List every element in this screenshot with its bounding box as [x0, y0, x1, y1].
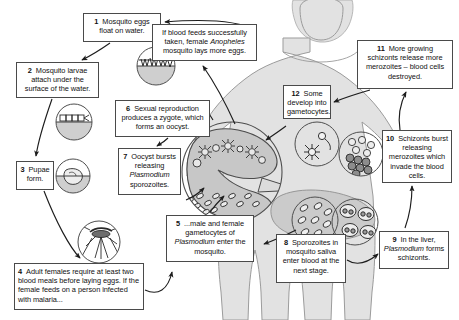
- step-10-text: Schizonts burst releasing merozoites whi…: [389, 134, 448, 181]
- arrow-4-to-5: [145, 272, 172, 292]
- step-4-number: 4: [18, 267, 26, 276]
- step-5-box: 5 ...male and female gametocytes of Plas…: [166, 215, 254, 262]
- step-4-text: Adult females require at least two blood…: [18, 267, 139, 304]
- step-9-species: Plasmodium: [384, 244, 424, 253]
- step-5-species: Plasmodium: [175, 237, 215, 246]
- arrow-6-to-7: [157, 138, 168, 146]
- step-6-number: 6: [126, 104, 134, 113]
- step-6-box: 6 Sexual reproduction produces a zygote,…: [115, 100, 210, 137]
- step-10-number: 10: [386, 134, 398, 143]
- step-1-text: Mosquito eggs float on water.: [99, 17, 149, 35]
- step-9-box: 9 In the liver, Plasmodium forms schizon…: [379, 231, 449, 269]
- arrow-9-to-10: [405, 186, 412, 228]
- step-5-number: 5: [176, 219, 184, 228]
- step-7-text-pre: Oocyst bursts releasing: [131, 152, 176, 170]
- adult-mosquito-circle: [78, 221, 120, 263]
- blood-feed-note-post: mosquito lays more eggs.: [163, 46, 246, 55]
- step-7-species: Plasmodium: [129, 170, 169, 179]
- blood-feed-note-species: Anopheles: [210, 37, 244, 46]
- step-2-number: 2: [28, 66, 36, 75]
- step-8-number: 8: [284, 238, 292, 247]
- step-4-box: 4 Adult females require at least two blo…: [14, 263, 144, 310]
- step-8-text: Sporozoites in mosquito saliva enter blo…: [283, 238, 340, 275]
- step-1-box: 1 Mosquito eggs float on water.: [83, 13, 161, 42]
- arrow-10-to-11: [399, 92, 406, 130]
- step-8-box: 8 Sporozoites in mosquito saliva enter b…: [276, 234, 346, 283]
- step-6-text: Sexual reproduction produces a zygote, w…: [121, 104, 203, 132]
- step-11-number: 11: [377, 44, 389, 53]
- arrow-1-to-2: [82, 43, 110, 60]
- step-5-text-pre: ...male and female gametocytes of: [184, 219, 244, 237]
- step-7-box: 7 Oocyst bursts releasing Plasmodium spo…: [118, 148, 181, 195]
- step-7-text-post: sporozoites.: [130, 180, 169, 189]
- step-9-text-pre: In the liver,: [400, 235, 435, 244]
- larvae-circle: [56, 104, 94, 144]
- step-11-box: 11 More growing schizonts release more m…: [357, 40, 453, 89]
- step-10-box: 10 Schizonts burst releasing merozoites …: [382, 130, 452, 183]
- step-2-box: 2 Mosquito larvae attach under the surfa…: [16, 62, 99, 98]
- step-12-number: 12: [291, 89, 303, 98]
- pupae-circle: [56, 159, 92, 196]
- arrow-2-to-3: [36, 99, 52, 156]
- step-12-box: 12 Some develop into gametocytes.: [283, 85, 331, 119]
- arrow-3-to-4: [44, 191, 80, 258]
- malaria-life-cycle-diagram: 1 Mosquito eggs float on water. 2 Mosqui…: [0, 0, 459, 320]
- step-3-box: 3 Pupae form.: [16, 161, 54, 190]
- blood-feed-note-box: If blood feeds successfully taken, femal…: [152, 24, 257, 61]
- step-3-text: Pupae form.: [27, 165, 50, 183]
